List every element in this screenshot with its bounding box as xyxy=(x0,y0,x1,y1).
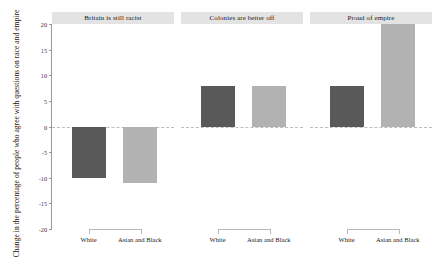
y-axis-tick-label: -15 xyxy=(39,200,47,207)
x-axis-panel: WhiteAsian and Black xyxy=(310,229,432,253)
x-axis-tick-label: White xyxy=(210,236,226,243)
y-axis-tick-label: 20 xyxy=(41,21,47,28)
y-axis-tick-label: 10 xyxy=(41,72,47,79)
panel-title: Britain is still racist xyxy=(52,12,174,24)
y-axis-tick-label: 0 xyxy=(44,123,47,130)
bar xyxy=(201,86,235,127)
bar xyxy=(123,127,157,183)
panel-title: Colonies are better off xyxy=(181,12,303,24)
x-axis-tick-label: White xyxy=(81,236,97,243)
y-axis: 20151050-5-10-15-20 xyxy=(44,24,52,229)
panel-title: Proud of empire xyxy=(310,12,432,24)
y-axis-title-text: Change in the percentage of people who a… xyxy=(12,10,21,258)
x-axis-panel: WhiteAsian and Black xyxy=(181,229,303,253)
x-axis-panel: WhiteAsian and Black xyxy=(52,229,174,253)
x-axis-tick-label: Asian and Black xyxy=(376,236,420,243)
bar xyxy=(330,86,364,127)
x-axis-tick-label: Asian and Black xyxy=(247,236,291,243)
x-axis-bracket xyxy=(218,229,271,234)
bar xyxy=(72,127,106,178)
y-axis-tick-label: -5 xyxy=(42,149,47,156)
bar xyxy=(381,24,415,127)
x-axis-row: WhiteAsian and BlackWhiteAsian and Black… xyxy=(52,229,432,253)
x-axis-tick-label: White xyxy=(339,236,355,243)
x-axis-bracket xyxy=(347,229,400,234)
chart-container: Change in the percentage of people who a… xyxy=(0,0,436,267)
y-axis-tick-label: -20 xyxy=(39,226,47,233)
y-axis-tick-label: -10 xyxy=(39,174,47,181)
y-axis-tick-label: 15 xyxy=(41,46,47,53)
y-axis-tick-label: 5 xyxy=(44,97,47,104)
bar xyxy=(252,86,286,127)
y-axis-title: Change in the percentage of people who a… xyxy=(0,0,34,267)
x-axis-bracket xyxy=(89,229,142,234)
x-axis-tick-label: Asian and Black xyxy=(118,236,162,243)
